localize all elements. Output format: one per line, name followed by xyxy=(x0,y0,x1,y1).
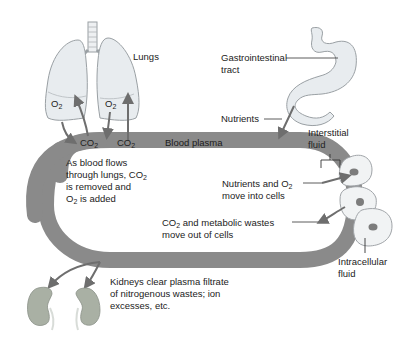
gi-tract-label-line2: tract xyxy=(221,64,239,75)
nutrients-o2-label-line2: move into cells xyxy=(222,190,285,201)
blood-plasma-label: Blood plasma xyxy=(165,137,223,148)
wastes-label-line2: move out of cells xyxy=(162,229,233,240)
intracellular-fluid-label-line1: Intracellular xyxy=(338,256,387,267)
interstitial-fluid-label-line1: Interstitial xyxy=(308,127,349,138)
interstitial-fluid-label-line2: fluid xyxy=(308,139,325,150)
kidneys-icon xyxy=(27,287,100,330)
kidneys-label-line3: excesses, etc. xyxy=(110,300,170,311)
kidneys-label-line1: Kidneys clear plasma filtrate xyxy=(110,276,229,287)
nutrients-o2-label-line1: Nutrients and O2 xyxy=(222,178,292,189)
intracellular-fluid-label-line2: fluid xyxy=(338,268,355,279)
lungs-desc-line1: As blood flows xyxy=(66,157,127,168)
gastrointestinal-tract-icon xyxy=(287,27,357,125)
lungs-desc-line4: O2 is added xyxy=(66,193,116,204)
co2-left-label: CO2 xyxy=(80,137,98,148)
lungs-desc-line2: through lungs, CO2 xyxy=(66,169,147,180)
lungs-label: Lungs xyxy=(133,51,159,62)
nutrients-label: Nutrients xyxy=(221,113,259,124)
body-fluid-exchange-diagram: Lungs Gastrointestinal tract Nutrients I… xyxy=(0,0,414,340)
o2-left-label: O2 xyxy=(51,98,62,109)
kidneys-label-line2: of nitrogenous wastes; ion xyxy=(110,288,220,299)
lungs-desc-line3: is removed and xyxy=(66,181,131,192)
o2-right-label: O2 xyxy=(105,98,116,109)
wastes-label-line1: CO2 and metabolic wastes xyxy=(162,217,274,228)
co2-right-label: CO2 xyxy=(117,137,135,148)
gi-tract-label-line1: Gastrointestinal xyxy=(221,52,287,63)
